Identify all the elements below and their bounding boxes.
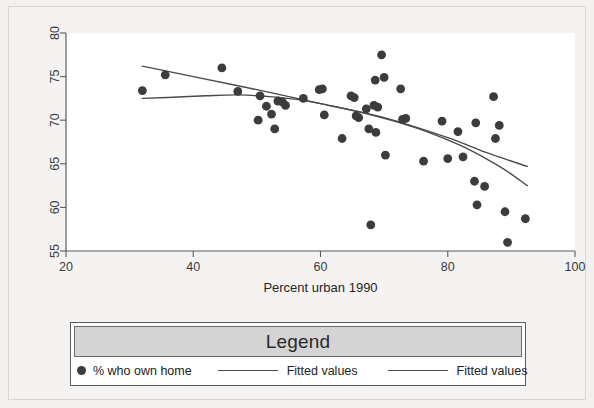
scatter-point [138,86,147,95]
scatter-point [281,101,290,110]
scatter-point [262,102,271,111]
legend-line-icon [218,370,278,371]
scatter-point [217,63,226,72]
scatter-point [366,220,375,229]
scatter-point [267,110,276,119]
scatter-point [299,94,308,103]
scatter-point [470,177,479,186]
legend-entry-label: % who own home [93,364,192,378]
x-tick-label: 80 [441,260,455,274]
scatter-point [419,157,428,166]
scatter-point [459,152,468,161]
x-tick-label: 40 [186,260,200,274]
legend-entry: % who own home [77,364,192,378]
scatter-point [443,154,452,163]
scatter-point [381,151,390,160]
x-tick-label: 60 [314,260,328,274]
legend-entry-label: Fitted values [457,364,528,378]
scatter-point [371,76,380,85]
scatter-point [233,87,242,96]
scatter-point [521,214,530,223]
scatter-point [491,134,500,143]
scatter-point [489,92,498,101]
y-tick-label: 65 [48,157,62,171]
legend-line-icon [388,370,448,371]
scatter-point [270,125,279,134]
scatter-point [401,114,410,123]
scatter-point [371,128,380,137]
y-tick-label: 80 [48,26,62,40]
legend-entries: % who own homeFitted valuesFitted values [71,357,525,384]
scatter-point [338,134,347,143]
y-tick-label: 75 [48,70,62,84]
scatter-point [354,113,363,122]
scatter-point [471,118,480,127]
y-tick-label: 60 [48,200,62,214]
chart-screenshot: 556065707580 20406080100 Percent urban 1… [0,0,594,408]
legend-dot-icon [77,366,86,375]
scatter-point [362,104,371,113]
y-tick-label: 55 [48,244,62,258]
legend: Legend % who own homeFitted valuesFitted… [70,322,526,386]
legend-entry: Fitted values [388,364,528,378]
scatter-point [396,84,405,93]
scatter-point [161,70,170,79]
scatter-point [501,207,510,216]
legend-entry-label: Fitted values [287,364,358,378]
legend-header: Legend [74,326,522,357]
scatter-point [503,238,512,247]
scatter-point [254,116,263,125]
y-axis-ticks: 556065707580 [48,26,66,258]
scatter-point [380,73,389,82]
scatter-point [256,91,265,100]
scatter-point [377,50,386,59]
x-axis-title: Percent urban 1990 [263,280,377,295]
scatter-point [318,84,327,93]
legend-entry: Fitted values [218,364,358,378]
scatter-point [454,127,463,136]
scatter-point [320,111,329,120]
scatter-point [473,200,482,209]
scatter-point [480,182,489,191]
scatter-point [350,93,359,102]
x-tick-label: 20 [59,260,73,274]
x-axis-ticks: 20406080100 [59,251,585,274]
y-tick-label: 70 [48,113,62,127]
scatter-point [438,117,447,126]
scatter-point [495,121,504,130]
legend-title: Legend [266,331,331,353]
scatter-point [373,103,382,112]
x-tick-label: 100 [565,260,586,274]
